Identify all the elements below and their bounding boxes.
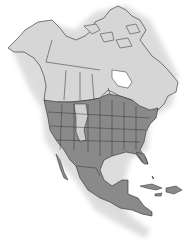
north-america-map (0, 0, 191, 247)
range-map (0, 0, 191, 247)
caribbean-islands (140, 176, 182, 196)
